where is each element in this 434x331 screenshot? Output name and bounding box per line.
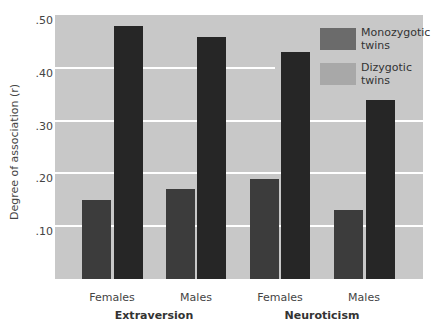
x-group-label: Extraversion bbox=[115, 309, 193, 322]
x-category-label: Males bbox=[180, 291, 212, 304]
legend-label-line: Monozygotic bbox=[361, 26, 421, 39]
bar-monozygotic-3 bbox=[366, 100, 395, 279]
legend-label-monozygotic: Monozygotic twins bbox=[361, 26, 421, 52]
legend-swatch-dizygotic bbox=[320, 63, 356, 85]
plot-area bbox=[55, 15, 423, 279]
x-group-label: Neuroticism bbox=[285, 309, 360, 322]
y-tick-label: .30 bbox=[8, 120, 53, 133]
bar-monozygotic-2 bbox=[281, 52, 310, 279]
bar-dizygotic-3 bbox=[334, 210, 363, 279]
x-category-label: Males bbox=[348, 291, 380, 304]
x-category-label: Females bbox=[257, 291, 303, 304]
legend-label-dizygotic: Dizygotic twins bbox=[361, 61, 421, 87]
legend-swatch-monozygotic bbox=[320, 28, 356, 50]
bar-monozygotic-1 bbox=[197, 37, 226, 279]
bar-dizygotic-1 bbox=[166, 189, 195, 279]
y-axis-label: Degree of association (r) bbox=[8, 84, 21, 220]
legend-label-line: twins bbox=[361, 74, 421, 87]
y-tick-label: .10 bbox=[8, 225, 53, 238]
bar-monozygotic-0 bbox=[114, 26, 143, 279]
legend-label-line: Dizygotic bbox=[361, 61, 421, 74]
y-tick-label: .20 bbox=[8, 172, 53, 185]
bar-dizygotic-2 bbox=[250, 179, 279, 279]
x-category-label: Females bbox=[89, 291, 135, 304]
y-tick-label: .40 bbox=[8, 67, 53, 80]
legend-label-line: twins bbox=[361, 39, 421, 52]
y-tick-label: .50 bbox=[8, 14, 53, 27]
gridline-40 bbox=[55, 67, 275, 69]
bar-dizygotic-0 bbox=[82, 200, 111, 279]
